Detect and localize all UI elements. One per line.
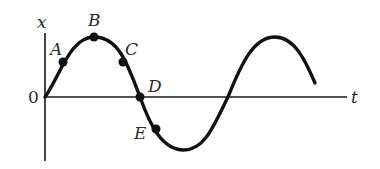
point-c-label: C — [125, 39, 138, 59]
displacement-time-diagram: x t 0 A B C D E — [0, 0, 380, 169]
t-axis-label: t — [351, 87, 358, 107]
point-e-label: E — [133, 123, 147, 143]
point-b-label: B — [87, 10, 101, 30]
point-a-label: A — [48, 39, 62, 59]
point-d-label: D — [147, 76, 162, 96]
x-axis-label: x — [37, 12, 47, 32]
point-e-marker — [152, 125, 161, 134]
origin-label: 0 — [28, 87, 39, 107]
point-d-marker — [136, 93, 145, 102]
point-b-marker — [90, 33, 99, 42]
sine-curve — [45, 37, 315, 150]
